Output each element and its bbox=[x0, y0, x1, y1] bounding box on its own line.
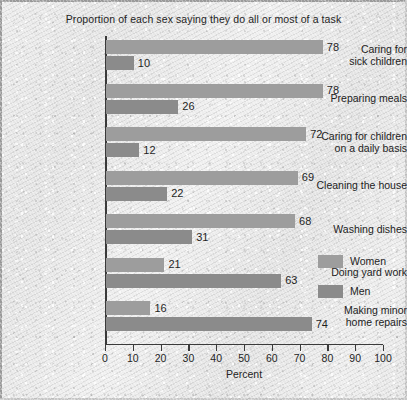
bar-women bbox=[106, 40, 323, 54]
legend-label: Women bbox=[350, 255, 386, 268]
x-axis-tick bbox=[133, 345, 134, 351]
chart-title: Proportion of each sex saying they do al… bbox=[0, 13, 407, 25]
bar-men bbox=[106, 56, 134, 70]
x-axis-tick bbox=[272, 345, 273, 351]
bar-value-label: 16 bbox=[154, 301, 166, 315]
x-axis-tick-label: 70 bbox=[294, 352, 306, 364]
bar-men bbox=[106, 317, 312, 331]
x-axis-title: Percent bbox=[105, 368, 383, 380]
x-axis-tick bbox=[188, 345, 189, 351]
bar-value-label: 31 bbox=[196, 230, 208, 244]
category-label-line: Washing dishes bbox=[307, 223, 407, 236]
bar-women bbox=[106, 84, 323, 98]
x-axis-tick-label: 30 bbox=[183, 352, 195, 364]
bar-men bbox=[106, 143, 139, 157]
bar-women bbox=[106, 171, 298, 185]
category-label-line: home repairs bbox=[307, 316, 407, 329]
bar-men bbox=[106, 274, 281, 288]
bar-men bbox=[106, 100, 178, 114]
legend-label: Men bbox=[350, 285, 370, 298]
x-axis-tick-label: 10 bbox=[127, 352, 139, 364]
chart-figure: Proportion of each sex saying they do al… bbox=[0, 0, 407, 400]
bar-women bbox=[106, 301, 150, 315]
x-axis-tick-label: 40 bbox=[210, 352, 222, 364]
category-label: Cleaning the house bbox=[307, 179, 407, 192]
category-label: Doing yard work bbox=[307, 266, 407, 279]
x-axis-tick bbox=[161, 345, 162, 351]
category-label-line: Doing yard work bbox=[307, 266, 407, 279]
category-label-line: sick children bbox=[307, 55, 407, 68]
bar-men bbox=[106, 187, 167, 201]
x-axis-tick bbox=[383, 345, 384, 351]
x-axis-tick bbox=[327, 345, 328, 351]
x-axis-tick-label: 0 bbox=[102, 352, 108, 364]
bar-value-label: 10 bbox=[138, 56, 150, 70]
category-label-line: Caring for bbox=[307, 43, 407, 56]
legend-swatch bbox=[318, 255, 343, 268]
category-label: Caring forsick children bbox=[307, 43, 407, 68]
x-axis-tick-label: 20 bbox=[155, 352, 167, 364]
category-label-line: Making minor bbox=[307, 304, 407, 317]
category-label: Washing dishes bbox=[307, 223, 407, 236]
x-axis-tick bbox=[105, 345, 106, 351]
figure-border-top bbox=[0, 0, 407, 2]
x-axis-tick-label: 50 bbox=[238, 352, 250, 364]
x-axis-tick-label: 80 bbox=[322, 352, 334, 364]
x-axis-tick-label: 100 bbox=[374, 352, 392, 364]
x-axis-tick bbox=[300, 345, 301, 351]
category-label-line: on a daily basis bbox=[307, 142, 407, 155]
category-label-line: Preparing meals bbox=[307, 92, 407, 105]
bar-value-label: 26 bbox=[182, 99, 194, 113]
x-axis-tick-label: 90 bbox=[349, 352, 361, 364]
category-label: Caring for childrenon a daily basis bbox=[307, 130, 407, 155]
bar-value-label: 21 bbox=[168, 257, 180, 271]
legend-swatch bbox=[318, 285, 343, 298]
bar-value-label: 12 bbox=[143, 143, 155, 157]
bar-value-label: 22 bbox=[171, 186, 183, 200]
category-label-line: Caring for children bbox=[307, 130, 407, 143]
x-axis-tick bbox=[244, 345, 245, 351]
x-axis-tick bbox=[355, 345, 356, 351]
category-label: Preparing meals bbox=[307, 92, 407, 105]
bar-women bbox=[106, 214, 295, 228]
category-label: Making minorhome repairs bbox=[307, 304, 407, 329]
figure-border-left bbox=[0, 0, 2, 400]
bar-women bbox=[106, 258, 164, 272]
x-axis-tick bbox=[216, 345, 217, 351]
bar-women bbox=[106, 127, 306, 141]
bar-value-label: 63 bbox=[285, 273, 297, 287]
category-label-line: Cleaning the house bbox=[307, 179, 407, 192]
bar-men bbox=[106, 230, 192, 244]
x-axis-tick-label: 60 bbox=[266, 352, 278, 364]
